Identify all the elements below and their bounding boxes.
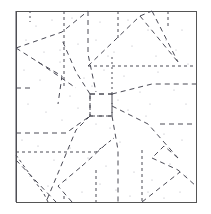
- speckle-dot: [35, 25, 36, 26]
- speckle-dot: [103, 69, 104, 70]
- speckle-dot: [145, 115, 146, 116]
- square-sheet-border: [17, 12, 197, 203]
- speckle-dot: [91, 85, 92, 86]
- speckle-dot: [119, 141, 120, 142]
- speckle-dot: [133, 171, 134, 172]
- speckle-dot: [27, 103, 28, 104]
- speckle-dot: [129, 195, 130, 196]
- speckle-dot: [59, 49, 60, 50]
- speckle-dot: [51, 19, 52, 20]
- speckle-dot: [71, 17, 72, 18]
- speckle-dot: [21, 139, 22, 140]
- speckle-dot: [127, 19, 128, 20]
- speckle-dot: [151, 179, 152, 180]
- speckle-dot: [77, 43, 78, 44]
- speckle-dot: [99, 21, 100, 22]
- speckle-dot: [107, 55, 108, 56]
- speckle-dot: [25, 39, 26, 40]
- speckle-dot: [99, 183, 100, 184]
- speckle-dot: [163, 133, 164, 134]
- speckle-dot: [173, 89, 174, 90]
- speckle-dot: [155, 55, 156, 56]
- speckle-dot: [37, 145, 38, 146]
- speckle-dot: [23, 69, 24, 70]
- speckle-dot: [69, 147, 70, 148]
- speckle-dot: [53, 159, 54, 160]
- speckle-dot: [45, 111, 46, 112]
- speckle-dot: [83, 77, 84, 78]
- speckle-dot: [109, 127, 110, 128]
- speckle-dot: [95, 39, 96, 40]
- speckle-dot: [43, 51, 44, 52]
- speckle-dot: [117, 99, 118, 100]
- crease-pattern-canvas: [0, 0, 211, 214]
- speckle-dot: [163, 197, 164, 198]
- speckle-dot: [179, 191, 180, 192]
- speckle-dot: [59, 61, 60, 62]
- speckle-dot: [175, 49, 176, 50]
- speckle-dot: [113, 51, 114, 52]
- speckle-dot: [149, 103, 150, 104]
- speckle-dot: [147, 191, 148, 192]
- speckle-dot: [181, 29, 182, 30]
- speckle-dot: [105, 165, 106, 166]
- speckle-dot: [185, 103, 186, 104]
- speckle-dot: [115, 189, 116, 190]
- speckle-dot: [165, 39, 166, 40]
- speckle-dot: [39, 79, 40, 80]
- speckle-dot: [77, 107, 78, 108]
- speckle-dot: [81, 191, 82, 192]
- speckle-dot: [47, 185, 48, 186]
- speckle-dot: [127, 109, 128, 110]
- speckle-dot: [181, 139, 182, 140]
- speckle-dot: [131, 45, 132, 46]
- speckle-dot: [87, 157, 88, 158]
- speckle-dot: [187, 63, 188, 64]
- speckle-dot: [61, 119, 62, 120]
- speckle-dot: [147, 29, 148, 30]
- speckle-dot: [169, 163, 170, 164]
- crease-pattern-figure: [0, 0, 211, 214]
- speckle-dot: [95, 123, 96, 124]
- speckle-dot: [69, 95, 70, 96]
- speckle-dot: [157, 71, 158, 72]
- speckle-dot: [123, 75, 124, 76]
- speckle-dot: [139, 91, 140, 92]
